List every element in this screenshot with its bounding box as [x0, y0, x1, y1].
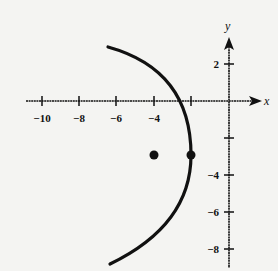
- parabola-curve: [108, 47, 191, 264]
- x-tick-label: −6: [110, 112, 122, 124]
- focus-point: [150, 151, 159, 160]
- y-axis-label: y: [224, 19, 231, 33]
- graph: x −10 −8 −6 −4 y 2 −4 −6 −8: [0, 0, 278, 271]
- x-axis-label: x: [263, 94, 270, 108]
- y-tick-label: −4: [207, 169, 219, 181]
- y-tick-label: −8: [207, 243, 219, 255]
- vertex-point: [187, 151, 196, 160]
- y-tick-label: 2: [214, 58, 220, 70]
- y-tick-label: −6: [207, 206, 219, 218]
- x-axis: x −10 −8 −6 −4: [26, 94, 270, 124]
- y-axis: y 2 −4 −6 −8: [207, 19, 234, 268]
- x-tick-label: −4: [148, 112, 160, 124]
- x-tick-label: −10: [33, 112, 51, 124]
- x-tick-label: −8: [73, 112, 85, 124]
